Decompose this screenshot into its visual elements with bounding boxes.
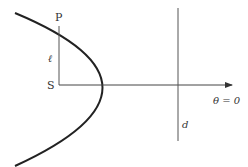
focus-s-label: S: [47, 79, 55, 92]
parabola-diagram: P S ℓ d θ = 0: [0, 0, 248, 167]
ell-label: ℓ: [48, 53, 52, 64]
directrix-d-label: d: [182, 119, 188, 130]
theta-zero-label: θ = 0: [213, 95, 241, 106]
point-p-label: P: [55, 11, 63, 24]
diagram-svg: P S ℓ d θ = 0: [0, 0, 248, 167]
